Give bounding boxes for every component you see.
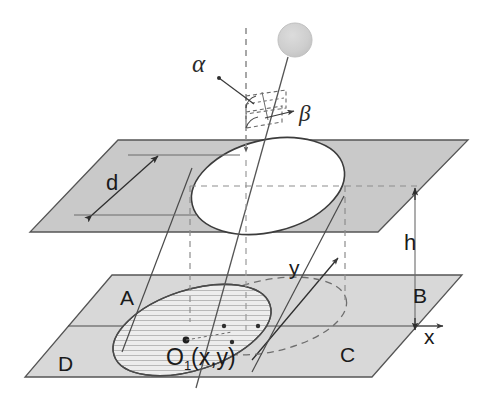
alpha-label: α	[192, 50, 206, 77]
y-axis-label: y	[289, 256, 300, 279]
quadrant-label-b: B	[413, 284, 427, 307]
h-label: h	[404, 230, 416, 255]
quadrant-label-a: A	[120, 286, 134, 309]
beta-angle-box	[246, 106, 282, 128]
beam-point-right	[256, 324, 260, 328]
d-label: d	[106, 170, 118, 195]
beta-leader-line	[265, 111, 294, 118]
beam-point-mid	[222, 324, 226, 328]
geometry-diagram: α β d h x y A B C D O 1 (x,y)	[0, 0, 481, 404]
figure-root: α β d h x y A B C D O 1 (x,y)	[0, 0, 481, 404]
angle-construction-detail	[246, 90, 286, 128]
alpha-leader-line	[219, 78, 254, 104]
source-sphere	[278, 23, 312, 57]
origin-coords: (x,y)	[191, 344, 236, 370]
quadrant-label-d: D	[58, 352, 73, 375]
beta-label: β	[298, 101, 311, 126]
quadrant-label-c: C	[340, 343, 355, 366]
x-axis-label: x	[424, 325, 435, 348]
origin-label: O	[166, 344, 184, 370]
origin-label-group: O 1 (x,y)	[166, 344, 236, 373]
